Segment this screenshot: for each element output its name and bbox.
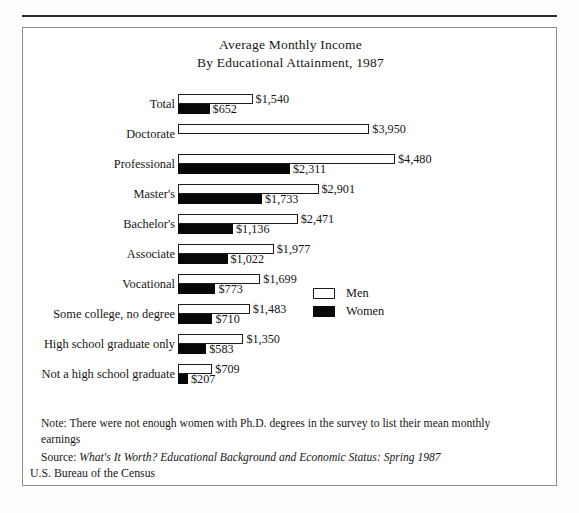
bar-women [178, 224, 233, 234]
top-horizontal-rule [22, 15, 557, 17]
category-label: High school graduate only [0, 338, 175, 351]
category-label: Some college, no degree [0, 308, 175, 321]
category-label: Not a high school graduate [0, 368, 175, 381]
chart-row: Not a high school graduate$709$207 [23, 364, 558, 390]
category-label: Bachelor's [0, 218, 175, 231]
chart-row: Associate$1,977$1,022 [23, 244, 558, 270]
figure-border-box: Average Monthly Income By Educational At… [22, 27, 557, 486]
legend-swatch-men-icon [313, 288, 335, 299]
category-label: Master's [0, 188, 175, 201]
chart-legend: Men Women [313, 286, 463, 322]
legend-label-men: Men [346, 286, 369, 301]
bar-men [178, 154, 395, 164]
chart-row: Professional$4,480$2,311 [23, 154, 558, 180]
category-label: Total [0, 98, 175, 111]
bar-men [178, 124, 369, 134]
category-label: Associate [0, 248, 175, 261]
bar-value-women: $1,733 [262, 194, 299, 204]
legend-swatch-women-icon [313, 306, 335, 317]
bar-value-women: $1,022 [228, 254, 265, 264]
bar-value-men: $4,480 [395, 154, 432, 164]
bar-value-women: $710 [212, 314, 239, 324]
figure-page: Average Monthly Income By Educational At… [0, 0, 579, 513]
bar-value-men: $1,977 [274, 244, 311, 254]
footnote-source-label: Source: [41, 451, 79, 464]
category-label: Vocational [0, 278, 175, 291]
bar-women [178, 194, 262, 204]
bar-value-women: $2,311 [290, 164, 326, 174]
chart-row: High school graduate only$1,350$583 [23, 334, 558, 360]
chart-row: Some college, no degree$1,483$710 [23, 304, 558, 330]
bar-value-women: $1,136 [233, 224, 270, 234]
chart-row: Total$1,540$652 [23, 94, 558, 120]
chart-row: Bachelor's$2,471$1,136 [23, 214, 558, 240]
bar-women [178, 104, 210, 114]
bar-value-women: $652 [210, 104, 237, 114]
bar-value-men: $1,350 [243, 334, 280, 344]
chart-row: Vocational$1,699$773 [23, 274, 558, 300]
category-label: Professional [0, 158, 175, 171]
chart-row: Master's$2,901$1,733 [23, 184, 558, 210]
bar-value-men: $1,540 [253, 94, 290, 104]
chart-row: Doctorate$3,950 [23, 124, 558, 150]
category-label: Doctorate [0, 128, 175, 141]
footnote-source-title: What's It Worth? Educational Background … [79, 451, 440, 464]
footnote-source: Source: What's It Worth? Educational Bac… [41, 450, 521, 466]
bar-women [178, 164, 290, 174]
bar-value-men: $1,483 [250, 304, 287, 314]
bar-value-men: $709 [212, 364, 239, 374]
footer-attribution: U.S. Bureau of the Census [30, 466, 155, 481]
bar-women [178, 314, 212, 324]
bar-value-women: $583 [206, 344, 233, 354]
bar-value-men: $3,950 [369, 124, 406, 134]
legend-item-men: Men [313, 286, 463, 303]
chart-notes: Note: There were not enough women with P… [41, 416, 521, 466]
bar-women [178, 374, 188, 384]
bar-value-men: $1,699 [260, 274, 297, 284]
legend-item-women: Women [313, 304, 463, 321]
bar-value-women: $207 [188, 374, 215, 384]
legend-label-women: Women [346, 304, 384, 319]
bar-value-men: $2,901 [319, 184, 356, 194]
bar-value-women: $773 [215, 284, 242, 294]
bar-women [178, 254, 228, 264]
bar-value-men: $2,471 [298, 214, 335, 224]
bar-women [178, 284, 215, 294]
bar-women [178, 344, 206, 354]
footnote-note: Note: There were not enough women with P… [41, 416, 521, 449]
